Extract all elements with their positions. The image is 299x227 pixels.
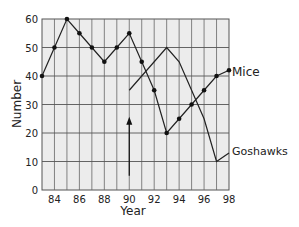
- data-point: [102, 59, 107, 64]
- data-point: [90, 45, 95, 50]
- data-point: [227, 68, 232, 73]
- y-axis-label: Number: [10, 80, 24, 128]
- y-tick-label: 60: [25, 14, 38, 25]
- series-label-goshawks: Goshawks: [232, 145, 288, 158]
- y-tick-label: 20: [25, 128, 38, 139]
- y-tick-label: 40: [25, 71, 38, 82]
- y-axis-ticks: 0102030405060: [25, 14, 38, 196]
- data-point: [52, 45, 57, 50]
- data-point: [139, 59, 144, 64]
- x-tick-label: 98: [223, 194, 236, 205]
- y-tick-label: 50: [25, 43, 38, 54]
- y-tick-label: 0: [32, 185, 38, 196]
- x-tick-label: 92: [148, 194, 161, 205]
- data-point: [152, 88, 157, 93]
- data-point: [40, 74, 45, 79]
- data-point: [214, 74, 219, 79]
- data-point: [65, 17, 70, 22]
- y-tick-label: 30: [25, 100, 38, 111]
- data-point: [189, 102, 194, 107]
- x-axis-label: Year: [119, 204, 145, 218]
- y-tick-label: 10: [25, 157, 38, 168]
- series-label-mice: Mice: [232, 65, 260, 79]
- data-point: [202, 88, 207, 93]
- x-tick-label: 88: [98, 194, 111, 205]
- data-point: [115, 45, 120, 50]
- data-point: [77, 31, 82, 36]
- data-point: [164, 131, 169, 136]
- x-tick-label: 84: [48, 194, 61, 205]
- line-chart: 0102030405060 8486889092949698 Year Numb…: [0, 0, 299, 227]
- x-tick-label: 96: [198, 194, 211, 205]
- data-point: [177, 116, 182, 121]
- data-point: [127, 31, 132, 36]
- x-tick-label: 86: [73, 194, 86, 205]
- x-tick-label: 94: [173, 194, 186, 205]
